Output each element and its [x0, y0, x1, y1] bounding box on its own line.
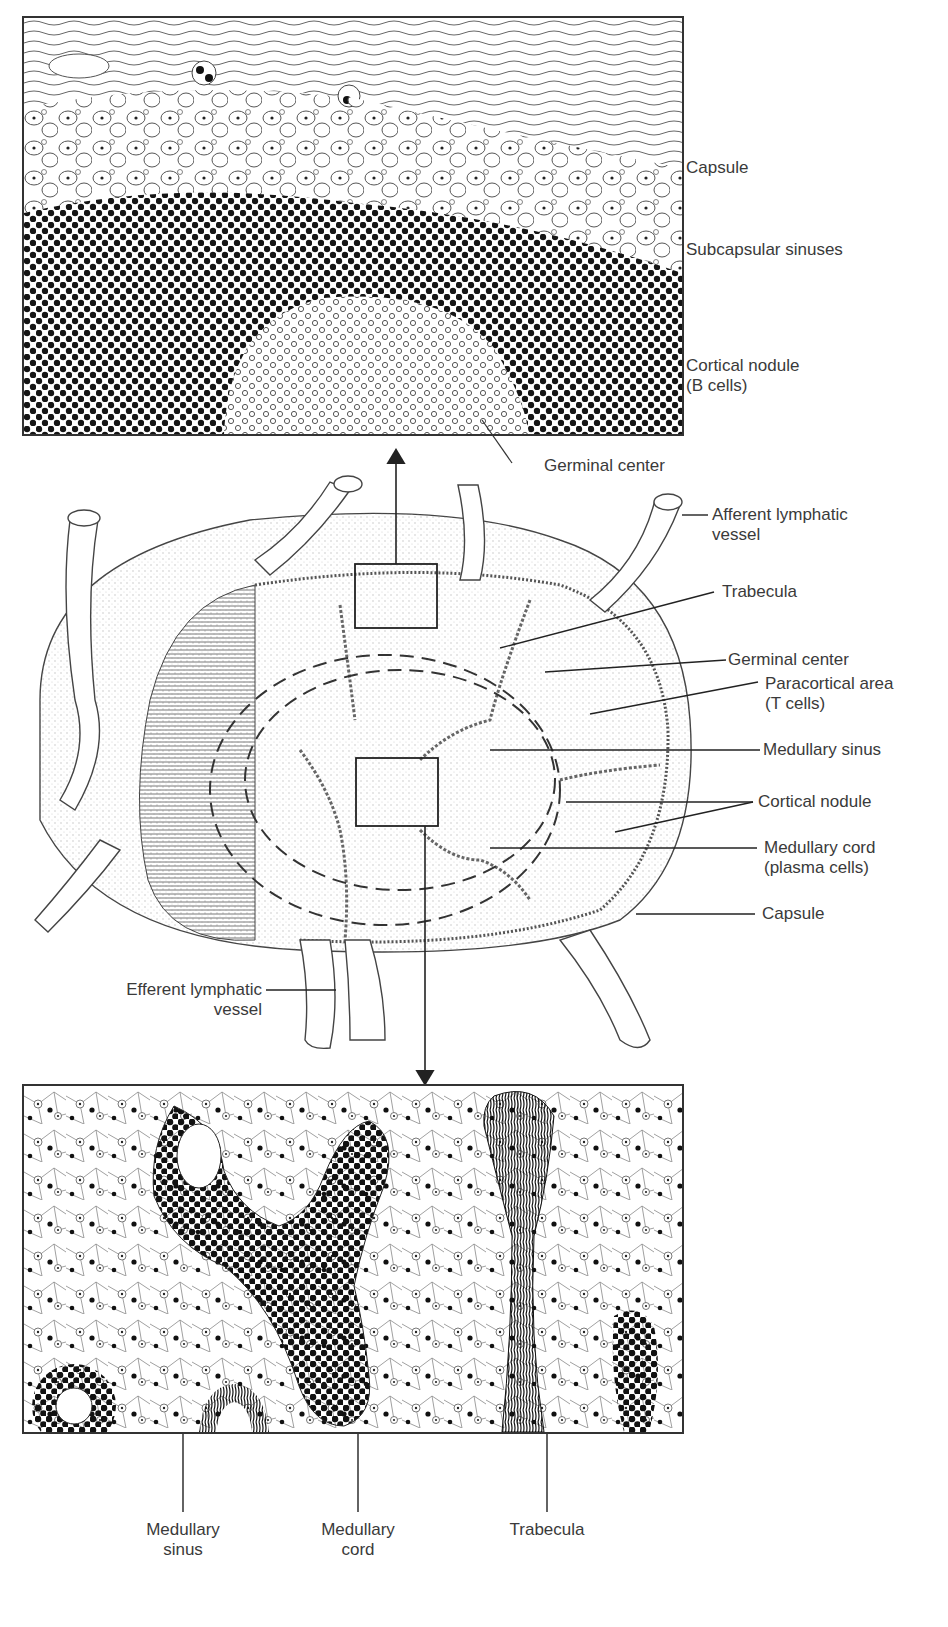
- label-medullary-sinus-middle: Medullary sinus: [763, 740, 881, 760]
- label-medullary-cord-middle: Medullary cord (plasma cells): [764, 838, 876, 878]
- label-trabecula-bottom: Trabecula: [482, 1520, 612, 1540]
- label-medullary-sinus-bottom: Medullary sinus: [118, 1520, 248, 1560]
- medulla-histology-drawing: [24, 1086, 682, 1432]
- label-medullary-cord-bottom: Medullary cord: [293, 1520, 423, 1560]
- label-germinal-center-middle: Germinal center: [728, 650, 849, 670]
- label-trabecula-middle: Trabecula: [722, 582, 797, 602]
- label-paracortical-area: Paracortical area (T cells): [765, 674, 894, 714]
- label-capsule-middle: Capsule: [762, 904, 824, 924]
- label-cortical-nodule-middle: Cortical nodule: [758, 792, 871, 812]
- label-afferent-lymphatic-vessel: Afferent lymphatic vessel: [712, 505, 848, 545]
- label-efferent-lymphatic-vessel: Efferent lymphatic vessel: [106, 980, 262, 1020]
- medulla-inset-panel: [22, 1084, 684, 1434]
